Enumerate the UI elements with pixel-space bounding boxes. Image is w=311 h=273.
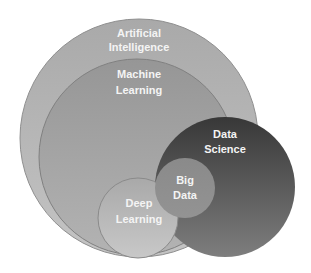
label-dl-line1: Deep — [126, 197, 153, 209]
diagram-svg: Artificial Intelligence Machine Learning… — [0, 0, 311, 273]
label-bd-line2: Data — [173, 189, 198, 201]
label-dl-line2: Learning — [116, 213, 162, 225]
label-ml-line2: Learning — [116, 84, 162, 96]
label-ds-line1: Data — [213, 128, 238, 140]
label-ds-line2: Science — [204, 143, 246, 155]
label-ai-line1: Artificial — [117, 27, 161, 39]
ai-ml-ds-venn-diagram: Artificial Intelligence Machine Learning… — [0, 0, 311, 273]
label-ml-line1: Machine — [117, 68, 161, 80]
label-bd-line1: Big — [176, 174, 194, 186]
label-ai-line2: Intelligence — [109, 41, 170, 53]
circle-big-data: Big Data — [155, 158, 215, 218]
